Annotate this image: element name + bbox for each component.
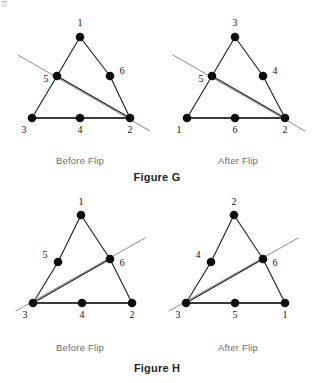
- figure-g-before: 156342: [18, 17, 150, 135]
- vertex-node: [281, 114, 290, 123]
- figure-h-before: 156342: [16, 196, 145, 320]
- vertex-label: 2: [283, 124, 288, 135]
- vertex-label: 2: [232, 196, 237, 207]
- figure-h-after: 246351: [169, 196, 298, 320]
- vertex-label: 1: [177, 124, 182, 135]
- triangulation-edge: [234, 215, 263, 259]
- figure-h: 156342246351: [16, 196, 298, 320]
- triangulation-edge: [212, 37, 235, 76]
- vertex-node: [106, 255, 115, 264]
- figure-g-caption: Figure G: [134, 171, 181, 183]
- vertex-label: 6: [120, 65, 125, 76]
- vertex-label: 5: [43, 249, 48, 260]
- vertex-label: 6: [233, 124, 238, 135]
- figure-sheet: 156342354162156342246351 Before FlipAfte…: [0, 0, 314, 383]
- vertex-label: 1: [78, 17, 83, 28]
- triangulation-edge: [80, 37, 110, 76]
- vertex-node: [183, 114, 192, 123]
- figure-g: 156342354162: [18, 17, 305, 135]
- vertex-label: 5: [44, 73, 49, 84]
- vertex-label: 3: [233, 17, 238, 28]
- triangulation-edge: [58, 215, 81, 262]
- figure-h-caption: Figure H: [134, 362, 180, 374]
- triangulation-edge: [186, 262, 211, 303]
- vertex-node: [207, 258, 216, 267]
- triangulation-edge: [33, 259, 110, 303]
- vertex-node: [54, 258, 63, 267]
- triangulation-edge: [57, 37, 80, 76]
- vertex-label: 4: [196, 249, 201, 260]
- vertex-node: [77, 211, 86, 220]
- vertex-label: 4: [78, 124, 83, 135]
- vertex-label: 5: [233, 309, 238, 320]
- figure-g-after: 354162: [173, 17, 305, 135]
- triangulation-edge: [235, 37, 263, 76]
- vertex-node: [230, 211, 239, 220]
- vertex-node: [231, 299, 240, 308]
- vertex-node: [29, 299, 38, 308]
- vertex-label: 2: [130, 309, 135, 320]
- vertex-node: [76, 114, 85, 123]
- vertex-label: 1: [283, 309, 288, 320]
- vertex-node: [126, 114, 135, 123]
- vertex-node: [182, 299, 191, 308]
- vertex-label: 3: [176, 309, 181, 320]
- vertex-node: [28, 114, 37, 123]
- vertex-node: [53, 72, 62, 81]
- vertex-node: [259, 255, 268, 264]
- triangulation-diagram: 156342354162156342246351: [0, 0, 314, 383]
- vertex-node: [128, 299, 137, 308]
- vertex-label: 6: [273, 257, 278, 268]
- figure-h-before-caption: Before Flip: [56, 342, 104, 353]
- vertex-label: 5: [199, 73, 204, 84]
- figure-h-after-caption: After Flip: [218, 342, 258, 353]
- vertex-node: [208, 72, 217, 81]
- figure-g-after-caption: After Flip: [218, 155, 258, 166]
- vertex-label: 2: [128, 124, 133, 135]
- vertex-label: 3: [23, 309, 28, 320]
- vertex-node: [78, 299, 87, 308]
- vertex-label: 3: [22, 124, 27, 135]
- vertex-node: [76, 33, 85, 42]
- vertex-node: [231, 114, 240, 123]
- triangulation-edge: [81, 215, 110, 259]
- vertex-label: 4: [80, 309, 85, 320]
- vertex-node: [231, 33, 240, 42]
- triangulation-edge: [211, 215, 234, 262]
- vertex-node: [281, 299, 290, 308]
- figure-g-before-caption: Before Flip: [56, 155, 104, 166]
- triangulation-edge: [186, 259, 263, 303]
- vertex-node: [259, 72, 268, 81]
- vertex-node: [106, 72, 115, 81]
- triangulation-edge: [33, 262, 58, 303]
- vertex-label: 1: [79, 196, 84, 207]
- triangulation-edge: [57, 76, 130, 118]
- vertex-label: 4: [273, 65, 278, 76]
- vertex-label: 6: [120, 257, 125, 268]
